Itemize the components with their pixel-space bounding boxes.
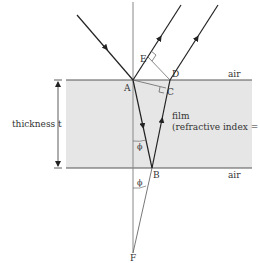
label-air-top: air <box>228 69 241 79</box>
construction-line-bf <box>133 168 152 253</box>
label-f: F <box>130 253 136 263</box>
right-angle-marker-e <box>151 51 156 61</box>
construction-line-de <box>148 57 170 80</box>
label-air-bottom: air <box>228 170 241 180</box>
label-a: A <box>123 83 131 93</box>
label-b: B <box>153 170 160 180</box>
label-refractive-index: (refractive index = n) <box>172 122 260 132</box>
incident-ray <box>77 15 133 80</box>
label-phi-2: ϕ <box>137 178 143 187</box>
label-phi-1: ϕ <box>137 142 143 151</box>
label-c: C <box>167 87 174 97</box>
label-thickness: thickness t <box>12 119 62 129</box>
label-e: E <box>140 54 147 64</box>
label-d: D <box>172 69 179 79</box>
thin-film-diagram: A B C D E F air air thickness t film (re… <box>0 0 260 263</box>
label-film: film <box>172 111 190 121</box>
